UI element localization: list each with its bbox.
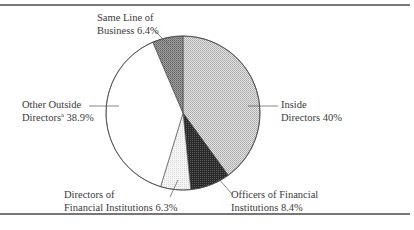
label-line: Other Outside — [22, 99, 94, 112]
label-same-line-of-business: Same Line of Business 6.4% — [97, 12, 159, 37]
label-inside-directors: Inside Directors 40% — [281, 99, 342, 124]
label-line: Officers of Financial — [231, 189, 318, 202]
label-line: Inside — [281, 99, 342, 112]
label-other-outside-directors: Other Outside Directorsa 38.9% — [22, 99, 94, 124]
pie-slices — [106, 36, 260, 190]
label-line: Directors of — [64, 189, 177, 202]
label-line: Directors 40% — [281, 112, 342, 125]
label-line: Financial Institutions 6.3% — [64, 202, 177, 215]
label-officers-of-financial-institutions: Officers of Financial Institutions 8.4% — [231, 189, 318, 214]
label-line: Institutions 8.4% — [231, 202, 318, 215]
leader-line-officers — [218, 178, 232, 194]
label-line: Directorsa 38.9% — [22, 112, 94, 125]
label-line: Same Line of — [97, 12, 159, 25]
label-directors-of-financial-institutions: Directors of Financial Institutions 6.3% — [64, 189, 177, 214]
label-line: Business 6.4% — [97, 25, 159, 38]
